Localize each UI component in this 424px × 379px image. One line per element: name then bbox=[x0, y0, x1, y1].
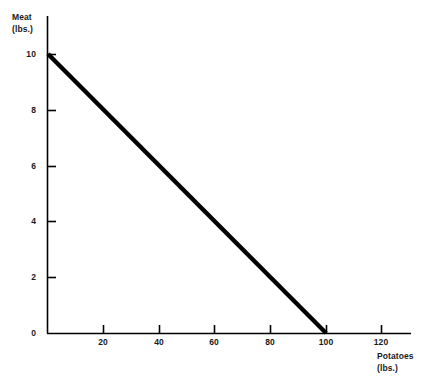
budget-constraint-chart: Meat (lbs.) Potatoes (lbs.) 10 8 6 4 2 0… bbox=[0, 0, 424, 379]
y-axis-ticks bbox=[48, 55, 56, 278]
budget-constraint-line bbox=[48, 54, 326, 333]
x-axis-ticks bbox=[104, 325, 382, 333]
plot-area bbox=[0, 0, 424, 379]
